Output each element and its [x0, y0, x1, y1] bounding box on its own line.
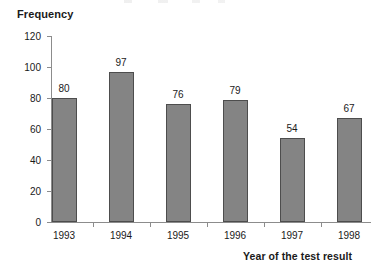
bar — [166, 104, 191, 222]
x-axis-tick — [264, 223, 265, 227]
bar-value-label: 80 — [58, 83, 69, 94]
x-axis-title: Year of the test result — [243, 250, 352, 262]
x-axis-category-label: 1997 — [281, 230, 303, 241]
x-axis-line — [47, 222, 371, 223]
x-axis-category-label: 1998 — [338, 230, 360, 241]
bar-value-label: 54 — [286, 123, 297, 134]
bar — [280, 138, 305, 222]
x-axis-category-label: 1993 — [53, 230, 75, 241]
x-axis-category-label: 1994 — [110, 230, 132, 241]
bar-value-label: 67 — [343, 103, 354, 114]
bar-value-label: 76 — [172, 89, 183, 100]
y-axis-tick-label: 120 — [24, 31, 41, 42]
bar-value-label: 97 — [115, 57, 126, 68]
bar-value-label: 79 — [229, 85, 240, 96]
y-axis-tick-label: 40 — [30, 155, 41, 166]
y-axis-tick — [47, 67, 51, 68]
y-axis-tick — [47, 98, 51, 99]
bar — [52, 98, 77, 222]
x-axis-tick — [150, 223, 151, 227]
x-axis-tick — [93, 223, 94, 227]
bar — [223, 100, 248, 222]
y-axis-title: Frequency — [17, 8, 74, 20]
x-axis-category-label: 1996 — [224, 230, 246, 241]
x-axis-tick — [207, 223, 208, 227]
x-axis-tick — [321, 223, 322, 227]
y-axis-tick-label: 100 — [24, 62, 41, 73]
plot-area: 0204060801001208019939719947619957919965… — [51, 36, 371, 222]
y-axis-tick — [47, 36, 51, 37]
y-axis-tick — [47, 191, 51, 192]
y-axis-tick-label: 80 — [30, 93, 41, 104]
bar — [109, 72, 134, 222]
y-axis-tick — [47, 222, 51, 223]
bar-chart-screenshot: Frequency 020406080100120801993971994761… — [0, 0, 383, 271]
y-axis-tick — [47, 160, 51, 161]
y-axis-tick-label: 60 — [30, 124, 41, 135]
y-axis-tick — [47, 129, 51, 130]
cropped-title-remnant — [118, 0, 248, 3]
y-axis-tick-label: 0 — [35, 217, 41, 228]
bar — [337, 118, 362, 222]
x-axis-category-label: 1995 — [167, 230, 189, 241]
y-axis-tick-label: 20 — [30, 186, 41, 197]
